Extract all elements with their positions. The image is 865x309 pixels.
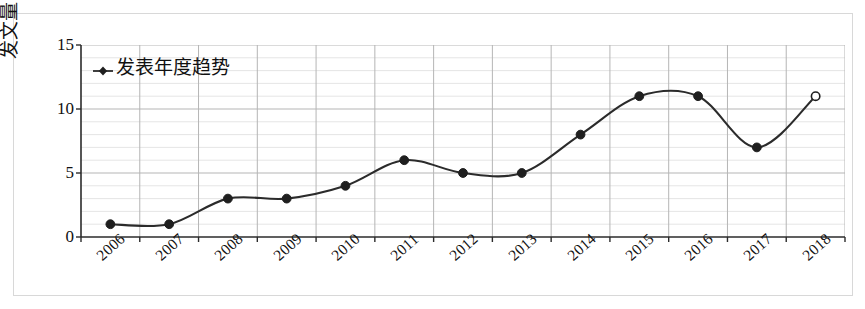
vertical-gridlines bbox=[140, 45, 845, 237]
data-point-2009 bbox=[282, 194, 291, 203]
y-axis-tick-labels: 15 10 5 0 bbox=[44, 45, 74, 237]
data-point-2010 bbox=[341, 181, 350, 190]
y-tick-label-5: 5 bbox=[48, 164, 74, 181]
data-point-2014 bbox=[576, 130, 585, 139]
chart-figure: 发文量（篇） 15 10 5 0 20062007200820092010201… bbox=[0, 0, 865, 309]
y-axis-title: 发文量（篇） bbox=[0, 0, 21, 72]
data-point-2008 bbox=[224, 194, 233, 203]
y-tick-label-0: 0 bbox=[48, 228, 74, 245]
y-tick-label-10: 10 bbox=[48, 100, 74, 117]
data-point-2007 bbox=[165, 220, 174, 229]
data-point-2013 bbox=[517, 169, 526, 178]
chart-legend: 发表年度趋势 bbox=[92, 52, 230, 79]
data-point-2017 bbox=[752, 143, 761, 152]
data-point-2018 bbox=[811, 92, 819, 100]
data-point-2015 bbox=[635, 92, 644, 101]
diamond-marker bbox=[92, 60, 114, 72]
data-point-2012 bbox=[459, 169, 468, 178]
y-tick-label-15: 15 bbox=[48, 36, 74, 53]
data-line-series-1 bbox=[110, 91, 815, 227]
minor-gridlines bbox=[81, 58, 845, 224]
x-axis-tick-labels: 2006200720082009201020112012201320142015… bbox=[81, 243, 845, 299]
data-point-2006 bbox=[106, 220, 115, 229]
data-point-2016 bbox=[694, 92, 703, 101]
data-point-2011 bbox=[400, 156, 409, 165]
legend-series-label: 发表年度趋势 bbox=[116, 52, 230, 79]
